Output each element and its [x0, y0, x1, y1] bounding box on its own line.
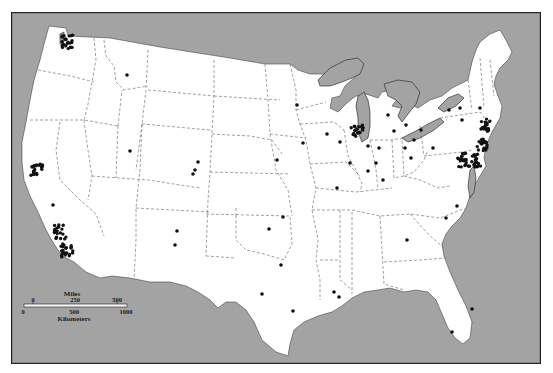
- city-dot-texas-c: [260, 292, 264, 296]
- city-dot-raleigh: [444, 216, 448, 220]
- city-dot-houston: [291, 309, 295, 313]
- city-dot-indiana-s: [366, 169, 370, 173]
- city-dot-indianapolis: [374, 161, 378, 165]
- city-dot-north-carolina: [455, 204, 459, 208]
- city-dot-cluster-bay-area: [39, 162, 42, 165]
- city-dot-cluster-chicago: [350, 126, 353, 129]
- city-dot-cluster-nyc: [479, 142, 482, 145]
- city-dot-kentucky: [381, 178, 385, 182]
- city-dot-minneapolis: [295, 103, 299, 107]
- city-dot-cluster-boston: [485, 117, 488, 120]
- city-dot-cluster-bay-area: [35, 173, 38, 176]
- city-dot-cluster-boston: [482, 126, 485, 129]
- city-dot-cluster-boston: [485, 122, 488, 125]
- city-dot-cluster-chicago: [353, 125, 356, 128]
- city-dot-cluster-philadelphia: [476, 164, 479, 167]
- city-dot-cluster-seattle: [62, 43, 65, 46]
- city-dot-texas-n: [279, 263, 283, 267]
- city-dot-indiana: [377, 146, 381, 150]
- city-dot-cluster-nyc: [485, 141, 488, 144]
- city-dot-indiana-n: [366, 144, 370, 148]
- city-dot-colorado-n: [196, 160, 200, 164]
- city-dot-cluster-nyc: [484, 147, 487, 150]
- city-dot-tampa: [450, 330, 454, 334]
- city-dot-cluster-los-angeles: [61, 232, 64, 235]
- city-dot-cluster-los-angeles: [55, 231, 58, 234]
- city-dot-cluster-seattle: [64, 37, 67, 40]
- city-dot-ny: [458, 106, 462, 110]
- city-dot-cluster-chicago: [357, 131, 360, 134]
- city-dot-michigan: [386, 113, 390, 117]
- city-dot-cluster-philadelphia: [474, 154, 477, 157]
- city-dot-ny-w: [447, 108, 451, 112]
- city-dot-cluster-san-diego: [65, 246, 68, 249]
- city-dot-cluster-baltimore-dc: [463, 164, 466, 167]
- city-dot-ohio: [403, 146, 407, 150]
- city-dot-ohio-c: [409, 156, 413, 160]
- city-dot-cluster-philadelphia: [473, 164, 476, 167]
- city-dot-nm-s: [173, 243, 177, 247]
- city-dot-georgia: [405, 238, 409, 242]
- city-dot-iowa: [301, 141, 305, 145]
- city-dot-cluster-los-angeles: [57, 225, 60, 228]
- city-dot-cluster-baltimore-dc: [464, 159, 467, 162]
- city-dot-cleveland: [419, 128, 423, 132]
- city-dot-cluster-san-diego: [61, 249, 64, 252]
- city-dot-utah: [128, 149, 132, 153]
- city-dot-cluster-los-angeles: [54, 237, 57, 240]
- km-tick-1000: 1000: [120, 308, 133, 315]
- city-dot-cluster-bay-area: [33, 164, 36, 167]
- city-dot-cluster-chicago: [355, 128, 358, 131]
- km-tick-0: 0: [21, 308, 24, 315]
- km-tick-500: 500: [69, 308, 79, 315]
- city-dot-st-louis: [335, 186, 339, 190]
- city-dot-central-ca: [51, 203, 55, 207]
- city-dot-michigan-s: [392, 129, 396, 133]
- city-dot-detroit: [404, 123, 408, 127]
- city-dot-oklahoma: [267, 227, 271, 231]
- city-dot-cluster-los-angeles: [53, 224, 56, 227]
- city-dot-toledo: [412, 138, 416, 142]
- city-dot-cluster-los-angeles: [60, 227, 63, 230]
- city-dot-nm-n: [175, 229, 179, 233]
- city-dot-oklahoma-n: [281, 215, 285, 219]
- city-dot-ny-c: [460, 118, 464, 122]
- city-dot-florida-east: [470, 307, 474, 311]
- city-dot-cluster-boston: [480, 120, 483, 123]
- city-dot-cluster-seattle: [70, 46, 73, 49]
- city-dot-ny-e: [478, 106, 482, 110]
- city-dot-cluster-nyc: [476, 145, 479, 148]
- city-dot-cluster-boston: [485, 128, 488, 131]
- city-dot-cluster-seattle: [67, 47, 70, 50]
- city-dot-cluster-san-diego: [64, 253, 67, 256]
- city-dot-cluster-bay-area: [32, 173, 35, 176]
- city-dot-cluster-chicago: [361, 128, 364, 131]
- city-dot-cluster-bay-area: [40, 168, 43, 171]
- city-dot-cluster-seattle: [66, 40, 69, 43]
- city-dot-cluster-seattle: [70, 39, 73, 42]
- city-dot-cluster-los-angeles: [64, 235, 67, 238]
- city-dot-cluster-seattle: [70, 34, 73, 37]
- city-dot-illinois: [338, 140, 342, 144]
- city-dot-cluster-san-diego: [71, 251, 74, 254]
- city-dot-cluster-baltimore-dc: [462, 152, 465, 155]
- scale-bar-graphic: [24, 304, 127, 307]
- city-dot-nebraska: [275, 158, 279, 162]
- city-dot-cluster-los-angeles: [59, 237, 62, 240]
- city-dot-cluster-san-diego: [68, 254, 71, 257]
- miles-tick-250: 250: [70, 296, 80, 303]
- city-dot-cluster-nyc: [477, 148, 480, 151]
- city-dot-cluster-baltimore-dc: [467, 164, 470, 167]
- city-dot-wisconsin: [325, 132, 329, 136]
- city-dot-cluster-san-diego: [60, 254, 63, 257]
- us-map: Miles 0 250 500 0 500 1000 Kilometers: [11, 12, 541, 364]
- city-dot-cluster-seattle: [61, 35, 64, 38]
- city-dot-cluster-los-angeles: [62, 224, 65, 227]
- city-dot-colorado-s: [191, 172, 195, 176]
- city-dot-new-orleans: [337, 295, 341, 299]
- city-dot-montana: [125, 73, 129, 77]
- city-dot-pennsylvania-w: [431, 146, 435, 150]
- city-dot-cluster-san-diego: [62, 243, 65, 246]
- city-dot-cluster-baltimore-dc: [460, 165, 463, 168]
- city-dot-illinois-c: [348, 161, 352, 165]
